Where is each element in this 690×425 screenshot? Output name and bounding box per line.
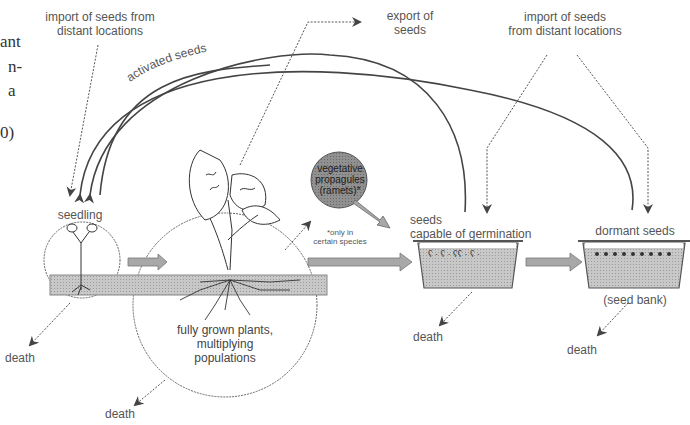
death-arrows xyxy=(30,292,628,405)
dormant-seeds-label: dormant seeds xyxy=(585,224,685,238)
death-dormant-label: death xyxy=(567,343,597,357)
dormant-tray xyxy=(578,241,690,288)
seedling-label: seedling xyxy=(50,208,110,222)
germination-to-dormant-arrow xyxy=(526,253,582,271)
plant-to-seeds-arrow xyxy=(308,253,412,271)
fully-grown-circle xyxy=(133,213,317,397)
death-germination-label: death xyxy=(413,330,443,344)
export-arrow xyxy=(240,22,360,165)
vegetative-arrow-out xyxy=(353,200,390,228)
vegetative-label: vegetative propagules (ramets)* xyxy=(310,163,370,196)
import-right-label: import of seeds from distant locations xyxy=(490,10,640,38)
export-label: export of seeds xyxy=(370,9,450,37)
seeds-capable-label: seeds capable of germination xyxy=(410,213,531,241)
import-right-arrows xyxy=(487,55,648,212)
death-plants-label: death xyxy=(105,407,135,421)
grow-arrow xyxy=(128,254,167,270)
seed-bank-label: (seed bank) xyxy=(590,293,680,307)
death-seedling-label: death xyxy=(5,351,35,365)
germination-tray: ʕ · ʕ · ʕʕ · ʕ · xyxy=(413,241,523,288)
svg-text:ʕ · ʕ · ʕʕ · ʕ ·: ʕ · ʕ · ʕʕ · ʕ · xyxy=(428,249,480,259)
footnote-label: *only in certain species xyxy=(305,228,375,246)
soil-band xyxy=(50,275,327,295)
import-left-label: import of seeds from distant locations xyxy=(40,10,160,38)
plant-icon xyxy=(189,150,280,270)
fully-grown-label: fully grown plants, multiplying populati… xyxy=(160,323,290,365)
